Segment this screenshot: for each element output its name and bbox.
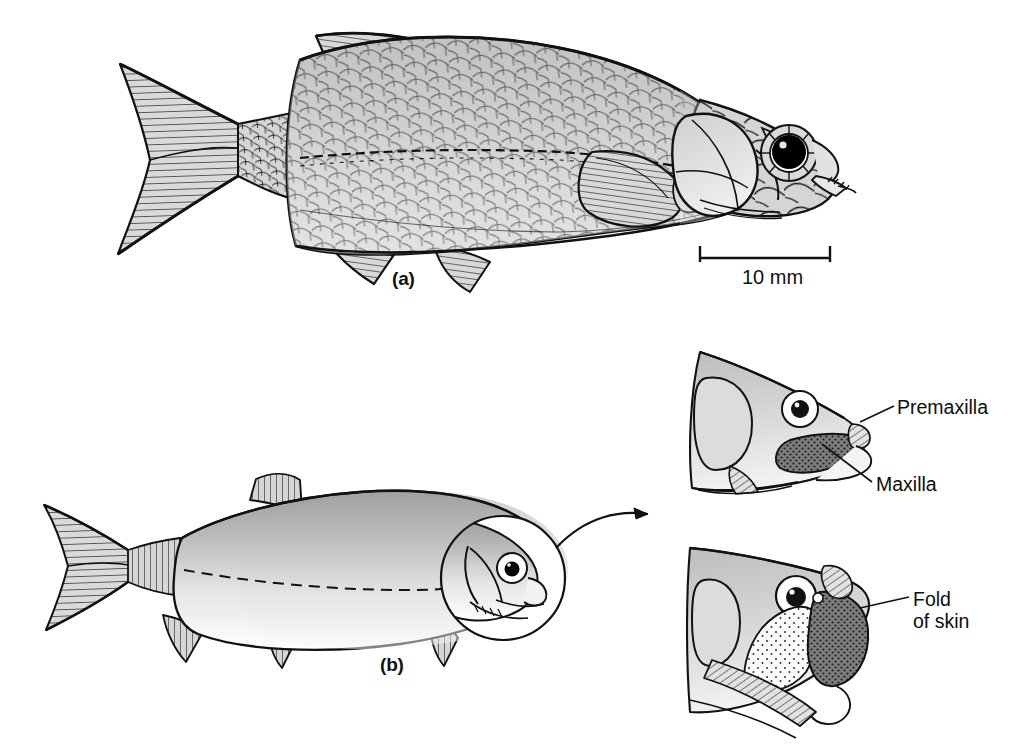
leader-premaxilla <box>860 406 894 422</box>
scale-bar <box>700 246 830 262</box>
eye-a <box>761 125 817 181</box>
caudal-fin-b <box>44 505 136 630</box>
magnifier-arrow <box>556 508 648 548</box>
detail-head-lower <box>687 548 869 738</box>
detail-head-upper <box>690 352 871 494</box>
annotation-fold-of-skin-line1: Fold <box>913 588 951 610</box>
eye-detail-upper <box>782 391 818 427</box>
panel-b-illustration <box>44 474 648 670</box>
head-a <box>672 90 860 230</box>
annotation-maxilla: Maxilla <box>876 474 937 496</box>
panel-a-label: (a) <box>392 268 415 290</box>
annotation-premaxilla: Premaxilla <box>897 397 988 419</box>
caudal-fin-a <box>118 64 250 254</box>
annotation-fold-of-skin-line2: of skin <box>913 610 969 632</box>
figure-root: (a) (b) 10 mm Premaxilla Maxilla Fold of… <box>0 0 1022 746</box>
operculum-detail-lower <box>692 579 740 666</box>
annotation-fold-of-skin: Fold of skin <box>913 589 969 633</box>
panel-a-illustration <box>118 28 860 292</box>
premaxilla-shape <box>848 424 870 449</box>
protruded-mouth-shape <box>808 592 868 686</box>
figure-canvas <box>0 0 1022 746</box>
scale-bar-label: 10 mm <box>742 266 803 289</box>
panel-b-label: (b) <box>380 654 404 676</box>
